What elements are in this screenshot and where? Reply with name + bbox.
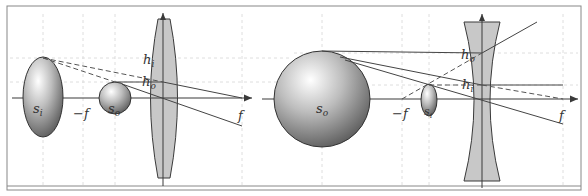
object-ball-right <box>274 51 370 147</box>
label-neg-focal-right: −f <box>392 106 410 121</box>
label-h-image-right: hi <box>462 77 473 94</box>
label-focal-left: f <box>237 108 245 123</box>
panel-diverging-lens: so si ho hi −f f <box>262 14 578 188</box>
label-focal-right: f <box>558 108 566 123</box>
panel-converging-lens: si so hi ho −f f <box>10 13 290 186</box>
image-ellipse-left <box>23 57 63 137</box>
optics-figure: si so hi ho −f f <box>0 0 588 196</box>
label-neg-focal-left: −f <box>73 106 91 121</box>
